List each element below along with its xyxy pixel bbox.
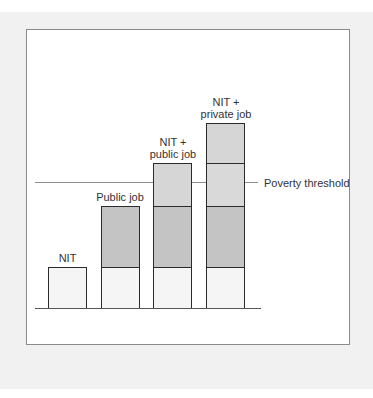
bar-nit-base bbox=[48, 267, 87, 309]
bar-nit-private-income bbox=[206, 206, 245, 269]
bar-nit-public-base bbox=[153, 267, 192, 309]
bar-label-nit-public-line1: NIT + bbox=[142, 136, 204, 148]
bar-nit-public-income bbox=[153, 206, 192, 269]
poverty-threshold-label: Poverty threshold bbox=[264, 177, 350, 189]
bar-nit-private-topup bbox=[206, 163, 245, 208]
bar-nit-private-base bbox=[206, 267, 245, 309]
bar-label-public-job: Public job bbox=[90, 191, 150, 203]
bar-public-job-base bbox=[101, 267, 140, 309]
bar-label-nit-private-line2: private job bbox=[194, 108, 258, 120]
bar-public-job-income bbox=[101, 206, 140, 269]
x-axis-baseline bbox=[35, 308, 261, 309]
bar-nit-private-extra bbox=[206, 123, 245, 165]
bar-label-nit-private-line1: NIT + bbox=[194, 96, 258, 108]
bar-nit-public-topup bbox=[153, 163, 192, 208]
bar-label-nit-public-line2: public job bbox=[142, 148, 204, 160]
bar-label-nit: NIT bbox=[48, 252, 87, 264]
